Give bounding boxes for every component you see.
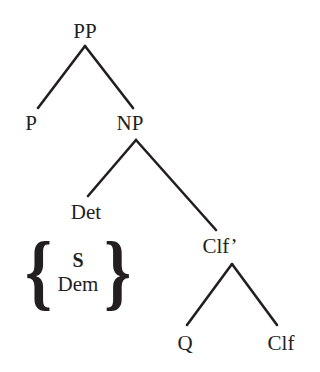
det-option-dem: Dem [58,273,99,295]
tree-edge-pp-np [85,46,133,108]
det-alternation-set: { S Dem } [22,232,134,312]
tree-edge-np-clfb [136,140,216,230]
left-curly-brace-icon: { [25,240,52,304]
tree-node-clf-bar: Clf’ [203,236,238,257]
right-curly-brace-icon: } [104,240,131,304]
tree-edge-np-det [88,140,136,196]
tree-edge-pp-p [38,46,85,108]
det-option-s: S [72,250,83,271]
tree-node-det: Det [71,202,101,223]
tree-node-pp: PP [73,21,96,42]
tree-edge-clfb-q [187,264,232,325]
tree-edge-clfb-clf [232,264,277,325]
tree-node-clf: Clf [268,333,295,354]
det-alternation-options: S Dem [55,250,101,295]
tree-node-np: NP [117,113,144,134]
tree-node-q: Q [177,333,192,354]
tree-node-p: P [25,113,37,134]
